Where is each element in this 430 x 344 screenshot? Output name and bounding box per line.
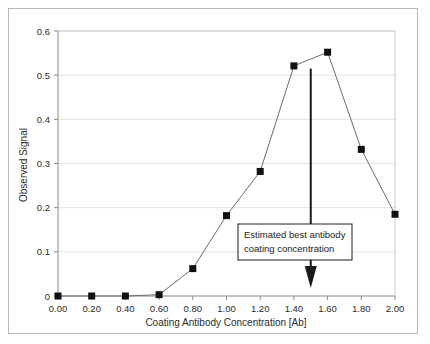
annotation-box: Estimated best antibody coating concentr…	[238, 224, 352, 260]
x-tick-label: 0.20	[82, 303, 101, 314]
x-tick-label: 0.00	[49, 303, 68, 314]
data-point-marker	[55, 293, 62, 300]
x-tick-label: 0.80	[184, 303, 203, 314]
data-point-marker	[223, 212, 230, 219]
data-point-marker	[257, 168, 264, 175]
x-tick-label: 1.60	[318, 303, 337, 314]
x-axis-title: Coating Antibody Concentration [Ab]	[145, 317, 306, 328]
x-tick-label: 0.60	[150, 303, 169, 314]
x-tick-label: 1.20	[251, 303, 270, 314]
x-tick-label: 1.80	[352, 303, 371, 314]
y-axis-ticks	[54, 31, 58, 296]
y-tick-label: 0.5	[37, 70, 50, 81]
x-tick-label: 1.00	[217, 303, 236, 314]
arrow-head-icon	[305, 266, 317, 288]
data-point-marker	[290, 62, 297, 69]
chart-figure: 00.10.20.30.40.50.6 0.000.200.400.600.80…	[0, 0, 430, 344]
annotation-line-2: coating concentration	[244, 243, 334, 254]
data-point-marker	[189, 265, 196, 272]
x-tick-label: 2.00	[386, 303, 405, 314]
data-point-marker	[358, 146, 365, 153]
y-tick-label: 0.4	[37, 114, 50, 125]
x-axis-tick-labels: 0.000.200.400.600.801.001.201.401.601.80…	[49, 303, 405, 314]
annotation-line-1: Estimated best antibody	[244, 229, 346, 240]
y-axis-title: Observed Signal	[18, 128, 29, 202]
y-tick-label: 0.1	[37, 246, 50, 257]
x-tick-label: 1.40	[285, 303, 304, 314]
x-axis-ticks	[58, 296, 395, 300]
data-point-marker	[88, 293, 95, 300]
y-tick-label: 0.6	[37, 26, 50, 37]
y-tick-label: 0.2	[37, 202, 50, 213]
line-chart-plot: 00.10.20.30.40.50.6 0.000.200.400.600.80…	[0, 0, 430, 344]
data-point-marker	[392, 211, 399, 218]
data-point-marker	[156, 291, 163, 298]
data-point-marker	[324, 49, 331, 56]
x-tick-label: 0.40	[116, 303, 135, 314]
y-tick-label: 0.3	[37, 158, 50, 169]
data-point-marker	[122, 293, 129, 300]
data-point-markers	[55, 49, 399, 300]
y-tick-label: 0	[45, 291, 50, 302]
y-axis-tick-labels: 00.10.20.30.40.50.6	[37, 26, 50, 302]
